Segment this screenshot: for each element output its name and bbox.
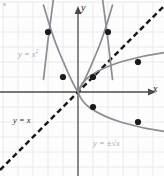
point-sqrt-1-neg1 [90, 104, 96, 110]
y-axis-arrowhead [75, 6, 82, 14]
sqrt-positive-branch [78, 53, 164, 92]
inverse-function-graph-figure: y x y = x2 y = x y = ±√x [0, 0, 164, 176]
point-sqrt-4-neg2 [135, 119, 141, 125]
point-parabola-2-4 [105, 29, 111, 35]
point-parabola-neg1-1 [60, 74, 66, 80]
point-parabola-neg2-4 [45, 29, 51, 35]
point-shared-1-1 [90, 74, 96, 80]
sqrt-negative-branch [78, 92, 164, 131]
x-axis-arrowhead [148, 89, 156, 96]
identity-line-dashed [0, 6, 164, 170]
grid-lines [0, 2, 164, 176]
corner-dot-mark [3, 3, 6, 6]
graph-canvas [0, 0, 164, 176]
point-sqrt-4-2 [135, 59, 141, 65]
